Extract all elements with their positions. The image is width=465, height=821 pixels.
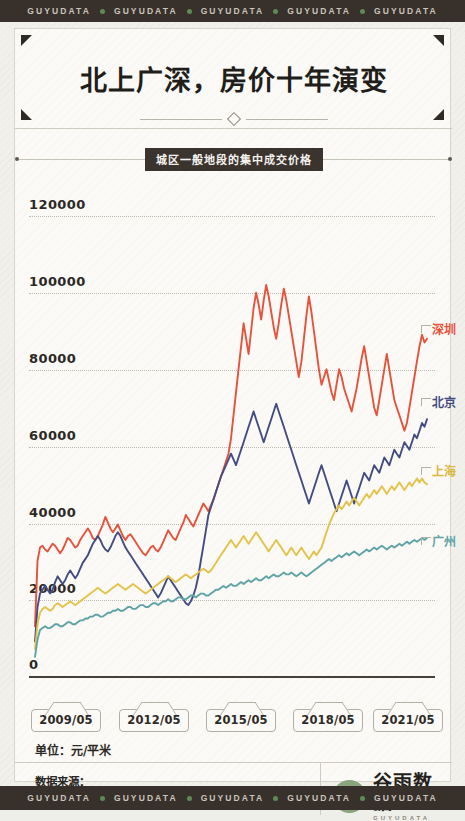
- watermark-text: GUYUDATA: [374, 793, 438, 803]
- y-zero-label: 0: [29, 657, 38, 672]
- title-rule: [15, 128, 452, 129]
- x-tick-label: 2015/05: [206, 713, 276, 727]
- watermark-dot: [187, 9, 192, 14]
- watermark-text: GUYUDATA: [27, 793, 91, 803]
- series-line-广州: [35, 538, 427, 657]
- x-tick-2009: 2009/05: [31, 701, 103, 733]
- legend-elbow-shanghai: [421, 467, 431, 475]
- watermark-text: GUYUDATA: [201, 793, 265, 803]
- watermark-text: GUYUDATA: [287, 793, 351, 803]
- x-tick-label: 2021/05: [373, 713, 443, 727]
- chart-series-canvas: [15, 179, 452, 699]
- watermark-dot: [273, 796, 278, 801]
- x-tick-2021: 2021/05: [373, 701, 445, 733]
- watermark-text: GUYUDATA: [27, 6, 91, 16]
- watermark-text: GUYUDATA: [287, 6, 351, 16]
- line-chart: 120000 100000 80000 60000 40000 20000 0 …: [15, 179, 452, 699]
- watermark-text: GUYUDATA: [374, 6, 438, 16]
- watermark-dot: [360, 9, 365, 14]
- subtitle-dot: [448, 157, 452, 161]
- legend-label-beijing[interactable]: 北京: [432, 393, 456, 410]
- x-tick-label: 2012/05: [119, 713, 189, 727]
- poster-card: 北上广深，房价十年演变 城区一般地段的集中成交价格 120000 100000: [14, 28, 451, 782]
- legend-elbow-guangzhou: [421, 537, 431, 545]
- watermark-text: GUYUDATA: [114, 6, 178, 16]
- diamond-icon: [226, 112, 240, 126]
- legend-elbow-shenzhen: [421, 325, 431, 333]
- corner-mark-top-right: [433, 35, 444, 46]
- watermark-dot: [360, 796, 365, 801]
- legend-elbow-beijing: [421, 398, 431, 406]
- page-title: 北上广深，房价十年演变: [15, 59, 452, 98]
- series-line-上海: [35, 479, 427, 650]
- watermark-dot: [273, 9, 278, 14]
- bottom-watermark-banner: GUYUDATA GUYUDATA GUYUDATA GUYUDATA GUYU…: [0, 786, 465, 810]
- watermark-dot: [187, 796, 192, 801]
- corner-mark-top-left: [21, 35, 32, 46]
- x-axis-line: [29, 676, 435, 678]
- x-tick-2012: 2012/05: [119, 701, 191, 733]
- subtitle-line-right: [323, 159, 449, 160]
- x-axis-labels: 2009/05 2012/05 2015/05 2018/05: [15, 701, 452, 735]
- x-tick-2018: 2018/05: [293, 701, 365, 733]
- watermark-text: GUYUDATA: [114, 793, 178, 803]
- watermark-text: GUYUDATA: [201, 6, 265, 16]
- watermark-dot: [100, 796, 105, 801]
- x-tick-2015: 2015/05: [206, 701, 278, 733]
- legend-label-shenzhen[interactable]: 深圳: [432, 320, 456, 337]
- x-tick-label: 2018/05: [293, 713, 363, 727]
- subtitle-row: 城区一般地段的集中成交价格: [15, 149, 452, 169]
- x-tick-label: 2009/05: [31, 713, 101, 727]
- divider-line-left: [140, 119, 222, 120]
- unit-label: 单位：元/平米: [35, 741, 111, 758]
- footer-divider: [15, 762, 452, 763]
- top-watermark-banner: GUYUDATA GUYUDATA GUYUDATA GUYUDATA GUYU…: [0, 0, 465, 22]
- chart-subtitle: 城区一般地段的集中成交价格: [145, 148, 323, 171]
- legend-label-shanghai[interactable]: 上海: [432, 462, 456, 479]
- legend-label-guangzhou[interactable]: 广州: [432, 532, 456, 549]
- brand-name-en: GUYUDATA: [373, 815, 450, 821]
- divider-line-right: [246, 119, 328, 120]
- title-divider: [15, 110, 452, 128]
- subtitle-line-left: [19, 159, 145, 160]
- watermark-dot: [100, 9, 105, 14]
